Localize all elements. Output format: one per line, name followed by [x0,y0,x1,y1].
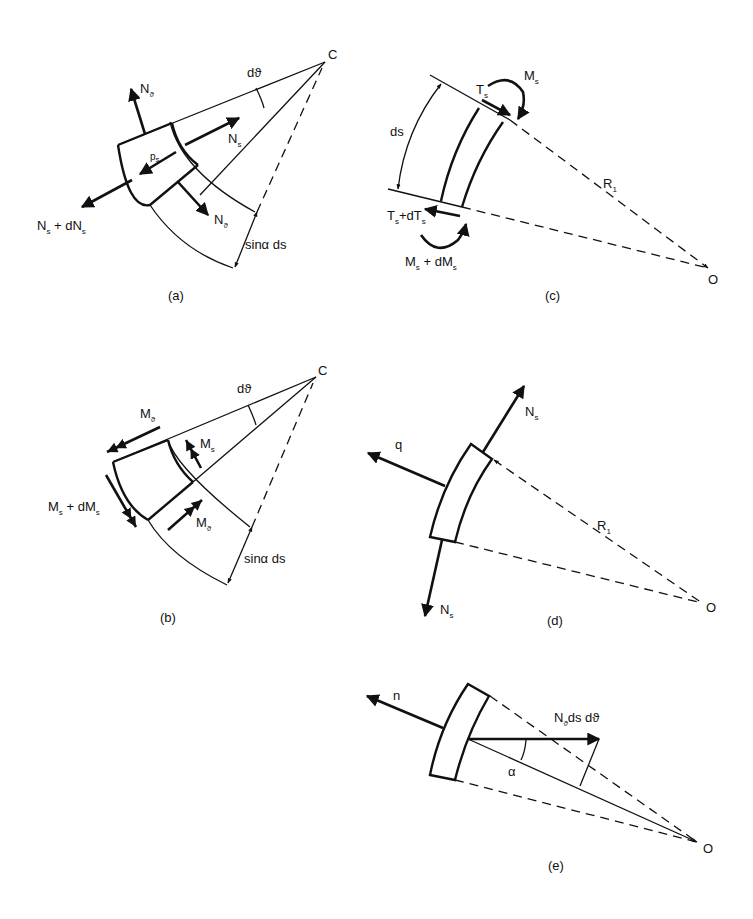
radius-line-top [510,120,708,268]
label-center-c: C [328,47,337,62]
element-top-edge [113,440,168,462]
shell-element [430,444,492,542]
label-n: n [393,688,400,703]
caption-a: (a) [168,288,184,303]
label-center-o: O [708,272,718,287]
label-n-s-right: Ns [228,131,241,149]
radius-line-bottom [455,542,702,603]
label-alpha: α [508,764,516,779]
label-m-s-plus-dm-s: Ms + dMs [48,499,100,517]
arrow-q [368,453,445,486]
angle-arc [256,88,264,108]
label-n-s-bottom: Ns [440,602,453,620]
element-left-edge [118,145,150,205]
element-left-edge [113,462,148,520]
label-d-theta: dϑ [237,381,252,396]
panel-c: Ts Ms ds R1 Ts+dTs Ms + dMs O (c) [387,68,718,303]
label-n-theta-bottom: Nϑ [214,212,228,230]
label-p-s: ps [150,151,160,164]
ds-dimension [398,84,441,189]
arrow-n [367,696,443,728]
arrow-n-s-top [483,386,524,452]
caption-c: (c) [545,288,560,303]
caption-e: (e) [548,858,564,873]
element-outer-edge [462,122,503,207]
label-m-theta-top: Mϑ [140,406,156,424]
arc-outer [148,520,227,585]
arrow-m-s-left [106,475,136,527]
label-sin-alpha-ds: sinα ds [245,237,287,252]
label-m-s-plus-dm-s: Ms + dMs [405,254,457,272]
label-sin-alpha-ds: sinα ds [244,551,286,566]
panel-e: n Nϑds dϑ α O (e) [367,684,713,873]
arc-inner [170,122,255,212]
arrow-m-theta-top [107,427,160,452]
arrow-m-s-right [186,440,201,468]
radial-line-dashed [257,68,322,212]
angle-arc [248,405,256,425]
label-n-theta-ds-dtheta: Nϑds dϑ [554,710,600,728]
panel-d: q Ns R1 Ns O (d) [368,386,716,628]
label-ds: ds [390,124,404,139]
arrow-t-s-bottom [425,209,460,216]
label-d-theta: dϑ [247,65,262,80]
arc-inner [168,440,250,527]
label-n-s-top: Ns [525,404,538,422]
label-t-s: Ts [476,82,488,100]
radial-line-middle [193,377,316,482]
arrow-m-s-bottom [421,224,466,248]
label-r1: R1 [597,518,611,536]
radius-line-bottom [462,207,708,268]
panel-a: C dϑ Nϑ Ns ps Ns + dNs Nϑ sinα ds (a) [37,47,337,303]
element-inner-edge [441,108,479,201]
label-q: q [395,437,402,452]
label-center-o: O [703,841,713,856]
label-center-c: C [318,363,327,378]
caption-b: (b) [160,610,176,625]
label-n-s-plus-dn-s: Ns + dNs [37,218,86,236]
label-n-theta-top: Nϑ [140,81,154,99]
label-t-s-plus-dt-s: Ts+dTs [387,208,426,226]
label-m-s: Ms [524,68,539,86]
label-r1: R1 [603,176,617,194]
arrow-n-theta-bottom [178,182,208,215]
section-line-bottom [388,189,462,207]
angle-arc-alpha [521,740,526,760]
panel-b: C dϑ Mϑ Ms Ms + dMs Mϑ sinα ds (b) [48,363,327,625]
element-bottom-edge [150,165,198,205]
projection-line [580,739,599,786]
label-m-theta-bottom: Mϑ [196,515,212,533]
radius-line-bottom [455,780,697,842]
radial-line-dashed [252,383,313,527]
label-center-o: O [706,600,716,615]
shell-element [430,684,489,780]
caption-d: (d) [547,613,563,628]
shell-element-diagram: C dϑ Nϑ Ns ps Ns + dNs Nϑ sinα ds (a) C … [0,0,753,919]
radius-line-solid [468,739,697,842]
label-m-s-right: Ms [200,436,215,454]
arrow-n-s-left [82,180,132,207]
